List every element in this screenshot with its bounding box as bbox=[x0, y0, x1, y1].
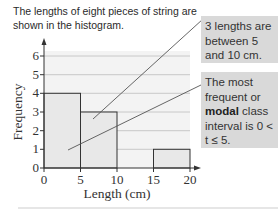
callout-modal-class: The most frequent or modal class interva… bbox=[201, 72, 278, 148]
y-tick-labels: 0 1 2 3 4 5 6 bbox=[33, 48, 40, 175]
svg-text:15: 15 bbox=[147, 172, 160, 187]
bar-0-5 bbox=[44, 93, 81, 168]
footer-divider bbox=[18, 207, 278, 209]
bar-15-20 bbox=[154, 149, 191, 168]
svg-text:6: 6 bbox=[33, 48, 40, 63]
x-tick-labels: 0 5 10 15 20 bbox=[41, 172, 197, 187]
svg-text:0: 0 bbox=[33, 160, 40, 175]
svg-text:2: 2 bbox=[33, 123, 40, 138]
callout-1-text: 3 lengths are between 5 and 10 cm. bbox=[205, 20, 272, 61]
svg-text:1: 1 bbox=[33, 141, 40, 156]
svg-text:20: 20 bbox=[184, 172, 197, 187]
svg-text:5: 5 bbox=[33, 67, 40, 82]
svg-text:10: 10 bbox=[111, 172, 124, 187]
y-axis-arrow-icon bbox=[42, 38, 47, 45]
callout-between-5-10: 3 lengths are between 5 and 10 cm. bbox=[201, 16, 278, 63]
svg-text:4: 4 bbox=[33, 85, 40, 100]
svg-text:5: 5 bbox=[77, 172, 84, 187]
x-axis-label: Length (cm) bbox=[83, 186, 150, 201]
bar-5-10 bbox=[81, 112, 118, 168]
svg-text:3: 3 bbox=[33, 104, 40, 119]
callout-2-pre: The most frequent or bbox=[205, 76, 261, 103]
callout-2-bold: modal bbox=[205, 105, 239, 117]
svg-text:0: 0 bbox=[41, 172, 48, 187]
y-axis-label: Frequency bbox=[10, 83, 25, 140]
x-axis-arrow-icon bbox=[194, 166, 201, 171]
